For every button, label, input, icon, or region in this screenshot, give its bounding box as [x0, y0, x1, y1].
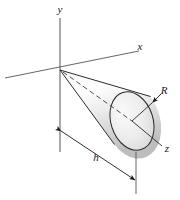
y-axis-label: y: [57, 3, 63, 15]
radius-label: R: [160, 84, 168, 96]
x-axis-label: x: [137, 40, 143, 52]
cone-diagram: y x z R h: [0, 0, 180, 200]
z-axis-label: z: [164, 142, 170, 154]
height-label: h: [93, 151, 99, 163]
cone-solid: [60, 70, 161, 159]
figure-container: y x z R h: [0, 0, 180, 200]
